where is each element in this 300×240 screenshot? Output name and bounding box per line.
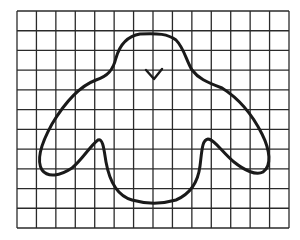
penguin-body-outline [40, 34, 269, 203]
penguin-grid-figure [0, 0, 300, 240]
grid [17, 11, 289, 228]
